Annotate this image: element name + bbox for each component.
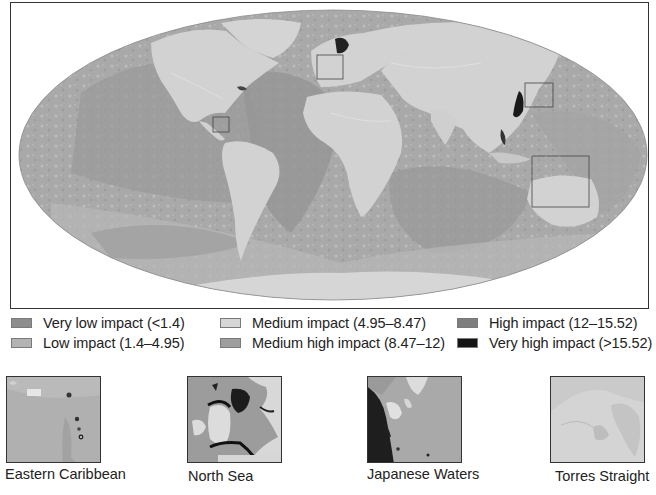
legend-swatch-medium [220, 318, 241, 328]
legend-item-very-low: Very low impact (<1.4) [11, 315, 185, 331]
legend-label: Medium impact (4.95–8.47) [252, 315, 426, 331]
legend-label: Medium high impact (8.47–12) [252, 335, 445, 351]
inset-caption-torres-strait: Torres Straight [555, 468, 649, 484]
inset-north-sea [187, 376, 282, 463]
legend-item-very-high: Very high impact (>15.52) [457, 335, 652, 351]
inset-eastern-caribbean [6, 376, 101, 463]
legend-swatch-medium-high [220, 338, 241, 348]
legend-item-high: High impact (12–15.52) [457, 315, 638, 331]
impact-legend: Very low impact (<1.4) Low impact (1.4–4… [0, 312, 656, 358]
inset-caption-north-sea: North Sea [188, 468, 253, 484]
legend-label: High impact (12–15.52) [489, 315, 638, 331]
inset-japanese-waters [367, 376, 462, 463]
legend-swatch-low [11, 338, 32, 348]
legend-label: Very low impact (<1.4) [43, 315, 185, 331]
inset-caption-japanese-waters: Japanese Waters [367, 466, 479, 482]
world-impact-map [10, 2, 649, 309]
inset-torres-strait [550, 376, 645, 463]
legend-item-medium-high: Medium high impact (8.47–12) [220, 335, 445, 351]
world-map-graphic [11, 3, 649, 309]
legend-swatch-very-high [457, 338, 478, 348]
inset-caption-eastern-caribbean: Eastern Caribbean [5, 466, 126, 482]
legend-label: Very high impact (>15.52) [489, 335, 652, 351]
legend-label: Low impact (1.4–4.95) [43, 335, 184, 351]
legend-swatch-very-low [11, 318, 32, 328]
legend-item-low: Low impact (1.4–4.95) [11, 335, 184, 351]
legend-swatch-high [457, 318, 478, 328]
legend-item-medium: Medium impact (4.95–8.47) [220, 315, 426, 331]
